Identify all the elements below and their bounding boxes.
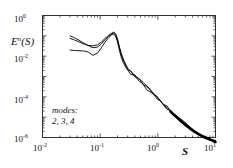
x-axis-label: S (182, 145, 188, 157)
modes-annotation: modes: 2, 3, 4 (52, 105, 78, 126)
y-axis-label: En(S) (10, 35, 34, 48)
modes-annotation-values: 2, 3, 4 (52, 116, 75, 126)
spectrum-chart-figure: 100 10-2 10-4 10-6 10-2 10-1 100 (0, 0, 233, 168)
chart-svg: 100 10-2 10-4 10-6 10-2 10-1 100 (0, 0, 233, 168)
modes-annotation-title: modes: (52, 105, 78, 115)
